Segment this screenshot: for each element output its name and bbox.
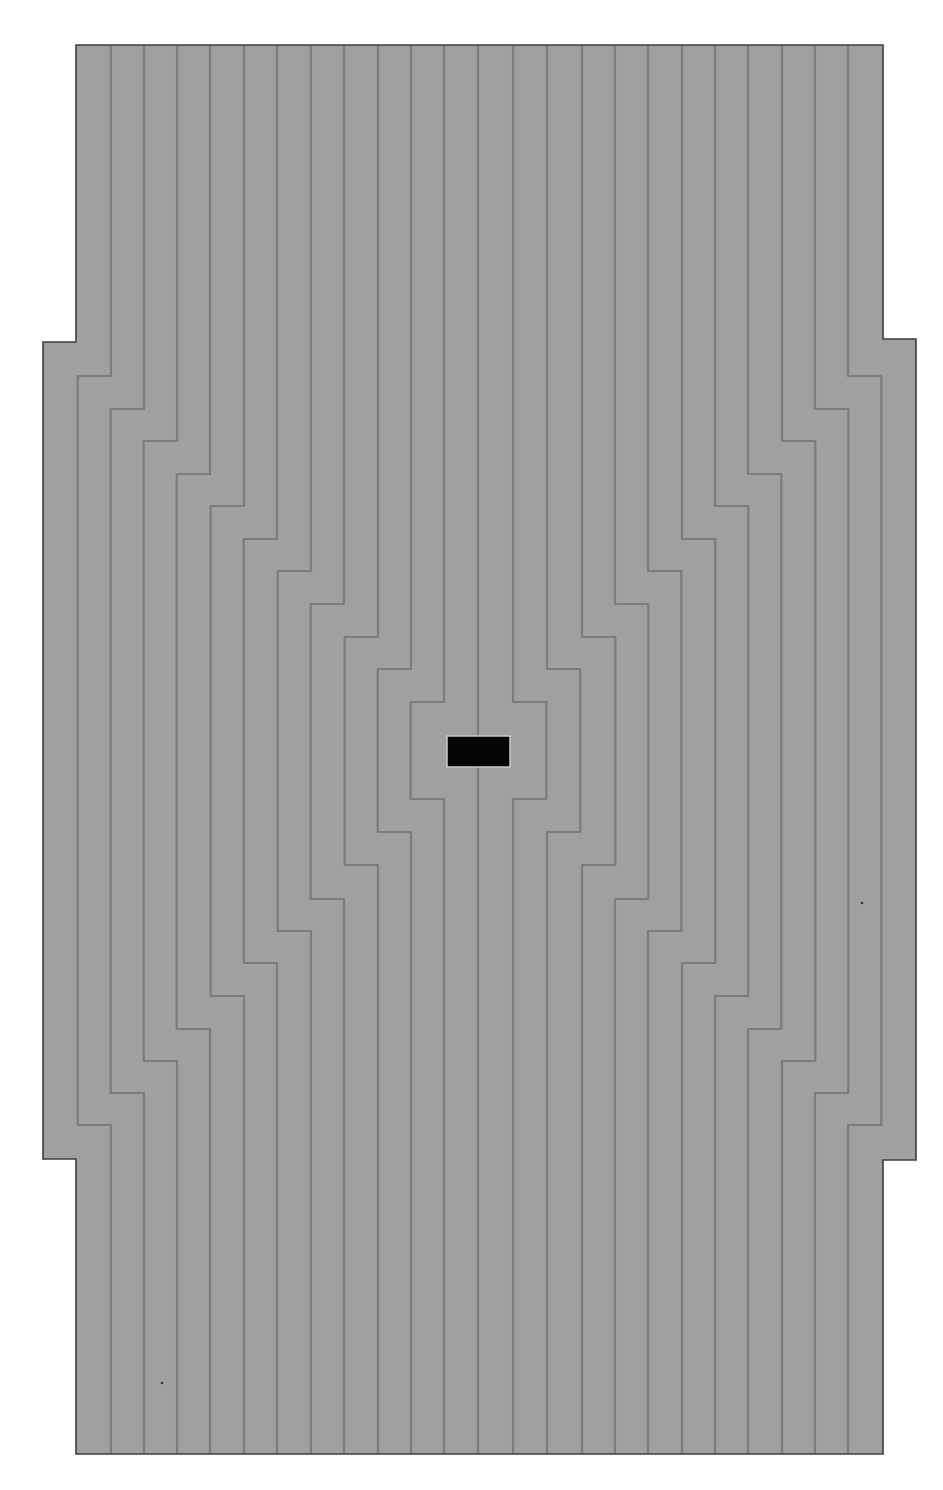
speck: [861, 902, 864, 905]
center-black-block: [447, 736, 510, 767]
speck: [161, 1382, 164, 1385]
stepped-line-diagram: [0, 0, 943, 1490]
